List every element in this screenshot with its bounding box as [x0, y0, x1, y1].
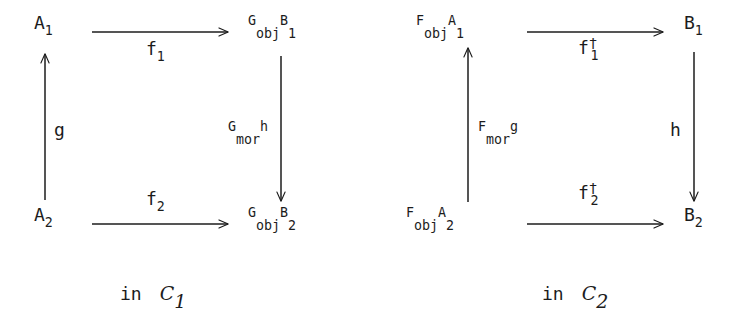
left-node-A2: A2: [34, 206, 53, 229]
left-edge-f1-sub: 1: [157, 49, 165, 64]
left-node-GobjB1-sub: 1: [288, 26, 296, 41]
left-edge-label-f2: f2: [146, 190, 165, 213]
right-node-B1-sub: 1: [695, 23, 703, 38]
right-node-B1: B1: [684, 14, 703, 37]
right-node-FobjA2-sub: 2: [446, 218, 454, 233]
right-edge-Fmor-base: g: [510, 119, 518, 134]
commutative-diagram-figure: A1 GobjB1 A2 GobjB2 f1 f2 g Gmorh inC1 F…: [0, 0, 745, 335]
left-node-GobjB1-functor: G: [248, 13, 256, 28]
right-edge-label-f1-dagger: f†1: [578, 36, 599, 62]
left-edge-Gmor-base: h: [260, 119, 268, 134]
left-edge-f2-sub: 2: [157, 199, 165, 214]
right-caption-category: C: [582, 282, 597, 304]
left-node-GobjB1-base: B: [280, 13, 288, 28]
diagram-arrows: [0, 0, 745, 335]
right-caption-in: in: [542, 283, 564, 304]
right-edge-f2-base: f: [578, 182, 589, 203]
right-node-FobjA2-functor-sub: obj: [414, 218, 438, 233]
left-node-GobjB2-sub: 2: [288, 218, 296, 233]
left-node-A1-base: A: [34, 12, 45, 33]
left-edge-Gmor-functor: G: [228, 119, 236, 134]
right-node-B1-base: B: [684, 12, 695, 33]
right-caption: inC2: [542, 284, 608, 311]
right-node-B2-sub: 2: [695, 215, 703, 230]
left-edge-label-f1: f1: [146, 40, 165, 63]
right-node-B2: B2: [684, 206, 703, 229]
left-node-GobjB2-functor: G: [248, 205, 256, 220]
left-edge-Gmor-functor-sub: mor: [236, 132, 260, 147]
right-edge-Fmor-functor: F: [478, 119, 486, 134]
right-node-FobjA2-functor: F: [406, 205, 414, 220]
right-edge-label-Fmor-g: Fmorg: [478, 120, 518, 146]
right-edge-f2-sub: 2: [591, 193, 599, 208]
left-caption-category-sub: 1: [174, 290, 186, 312]
left-edge-g-base: g: [54, 119, 65, 140]
left-edge-f2-base: f: [146, 188, 157, 209]
right-edge-Fmor-functor-sub: mor: [486, 132, 510, 147]
right-node-FobjA2-base: A: [438, 205, 446, 220]
left-edge-label-g: g: [54, 121, 65, 139]
left-edge-f1-base: f: [146, 38, 157, 59]
left-node-A2-base: A: [34, 204, 45, 225]
right-edge-h-base: h: [670, 119, 681, 140]
right-caption-category-sub: 2: [596, 290, 608, 312]
right-node-FobjA1-functor: F: [416, 13, 424, 28]
right-node-FobjA1-functor-sub: obj: [424, 26, 448, 41]
left-node-A1-sub: 1: [45, 23, 53, 38]
left-caption-in: in: [120, 283, 142, 304]
right-node-FobjA1: FobjA1: [416, 14, 464, 40]
left-node-GobjB1-functor-sub: obj: [256, 26, 280, 41]
right-edge-f1-sub: 1: [591, 48, 599, 63]
right-node-FobjA1-sub: 1: [456, 26, 464, 41]
left-caption: inC1: [120, 284, 186, 311]
right-node-FobjA1-base: A: [448, 13, 456, 28]
right-edge-f1-base: f: [578, 37, 589, 58]
left-node-A1: A1: [34, 14, 53, 37]
left-caption-category: C: [160, 282, 175, 304]
left-node-GobjB2-base: B: [280, 205, 288, 220]
left-node-A2-sub: 2: [45, 215, 53, 230]
left-node-GobjB2-functor-sub: obj: [256, 218, 280, 233]
left-edge-label-Gmor-h: Gmorh: [228, 120, 268, 146]
right-node-B2-base: B: [684, 204, 695, 225]
right-edge-label-f2-dagger: f†2: [578, 181, 599, 207]
left-node-GobjB2: GobjB2: [248, 206, 296, 232]
right-node-FobjA2: FobjA2: [406, 206, 454, 232]
left-node-GobjB1: GobjB1: [248, 14, 296, 40]
right-edge-label-h: h: [670, 121, 681, 139]
